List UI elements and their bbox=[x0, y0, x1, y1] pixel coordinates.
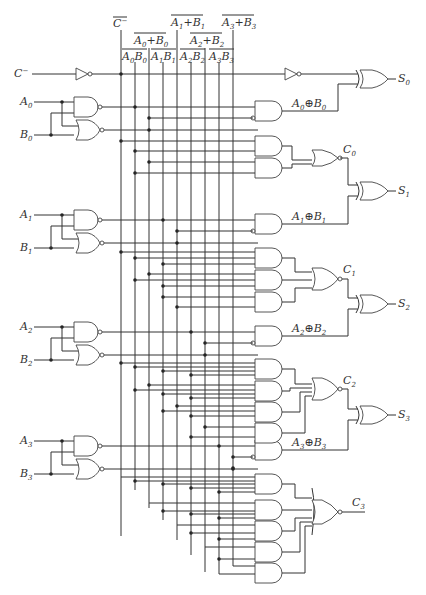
circuit-diagram: C− A0+B0 A1+B1 A2+B2 A3+B3 A0B0 A1B1 A2B… bbox=[0, 0, 426, 595]
input-stage-2: A2 B2 bbox=[19, 320, 258, 368]
label-p2: A2+B2 bbox=[189, 34, 225, 49]
bus-labels: C− A0+B0 A1+B1 A2+B2 A3+B3 A0B0 A1B1 A2B… bbox=[113, 15, 257, 65]
svg-text:S0: S0 bbox=[398, 72, 411, 87]
carry-in: C− bbox=[14, 67, 358, 80]
vertical-bus bbox=[121, 30, 233, 574]
svg-text:A1⊕B1: A1⊕B1 bbox=[291, 210, 326, 225]
carry-nor-gates: C0 C1 C2 C3 bbox=[282, 143, 365, 573]
svg-text:S2: S2 bbox=[398, 297, 411, 312]
sum-xor-gates: A0⊕B0 S0 A1⊕B1 S1 A2⊕B2 S2 A3⊕B3 S3 bbox=[282, 70, 411, 451]
svg-text:C1: C1 bbox=[343, 263, 356, 278]
feeder-wires bbox=[121, 118, 255, 574]
svg-text:B1: B1 bbox=[19, 241, 33, 256]
input-stage-1: A1 B1 bbox=[19, 208, 258, 256]
input-stage-0: A0 B0 bbox=[19, 95, 258, 143]
and-gates-carry bbox=[255, 136, 282, 583]
label-p1: A1+B1 bbox=[170, 16, 205, 31]
svg-text:A3⊕B3: A3⊕B3 bbox=[291, 436, 327, 451]
svg-text:B3: B3 bbox=[19, 467, 33, 482]
label-c-bar: C− bbox=[113, 17, 127, 30]
input-stage-3: A3 B3 bbox=[19, 434, 258, 482]
svg-text:A0⊕B0: A0⊕B0 bbox=[291, 97, 327, 112]
svg-text:A2: A2 bbox=[19, 320, 33, 335]
svg-text:C2: C2 bbox=[343, 374, 356, 389]
svg-text:C3: C3 bbox=[352, 496, 365, 511]
label-g3: A3B3 bbox=[208, 50, 235, 65]
svg-text:S1: S1 bbox=[398, 184, 410, 199]
svg-text:S3: S3 bbox=[398, 408, 411, 423]
svg-text:C−: C− bbox=[14, 67, 28, 80]
svg-text:A0: A0 bbox=[19, 95, 33, 110]
svg-text:A2⊕B2: A2⊕B2 bbox=[291, 322, 327, 337]
label-p0: A0+B0 bbox=[133, 34, 169, 49]
label-g0: A0B0 bbox=[121, 50, 148, 65]
svg-text:A1: A1 bbox=[19, 208, 32, 223]
svg-text:A3: A3 bbox=[19, 434, 33, 449]
svg-text:B2: B2 bbox=[19, 353, 33, 368]
svg-text:C0: C0 bbox=[343, 143, 356, 158]
label-p3: A3+B3 bbox=[221, 16, 257, 31]
label-g2: A2B2 bbox=[179, 50, 206, 65]
svg-text:B0: B0 bbox=[19, 128, 33, 143]
